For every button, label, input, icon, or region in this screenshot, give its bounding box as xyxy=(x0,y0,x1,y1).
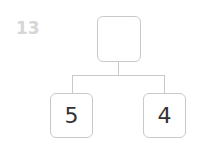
connector-left xyxy=(72,75,73,93)
root-box[interactable] xyxy=(97,16,141,62)
left-child-box: 5 xyxy=(50,93,93,138)
connector-right xyxy=(164,75,165,93)
right-child-box: 4 xyxy=(143,93,186,138)
connector-stem xyxy=(118,62,119,75)
connector-horizontal xyxy=(72,75,165,76)
problem-number: 13 xyxy=(16,18,40,38)
